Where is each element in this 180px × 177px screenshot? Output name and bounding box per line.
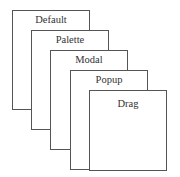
layer-label: Modal — [51, 54, 127, 65]
layer-label: Palette — [32, 34, 108, 45]
layer-label: Popup — [71, 74, 147, 85]
layer-label: Default — [13, 14, 89, 25]
layer-drag: Drag — [89, 90, 167, 171]
layer-label: Drag — [90, 98, 166, 109]
